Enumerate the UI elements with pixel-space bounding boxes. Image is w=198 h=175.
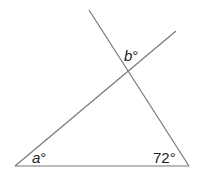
left-line [15, 31, 176, 166]
angle-b-label: b° [124, 48, 138, 63]
angle-a-label: a° [32, 150, 46, 165]
angle-72-label: 72° [153, 150, 176, 165]
triangle-diagram: b° a° 72° [0, 0, 198, 175]
degree-symbol: ° [40, 149, 46, 166]
degree-symbol: ° [132, 47, 138, 64]
